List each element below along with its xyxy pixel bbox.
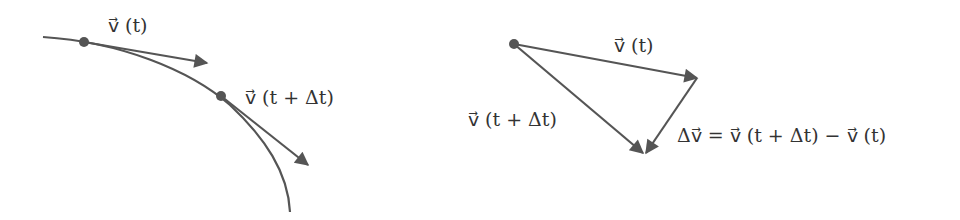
trajectory-panel: v⃗ (t) v⃗ (t + Δt) (43, 14, 334, 212)
label-v-t: v⃗ (t) (108, 14, 148, 36)
position-point-t-dt (216, 91, 226, 101)
vector-v-t-dt (514, 44, 643, 153)
vector-triangle-panel: v⃗ (t) v⃗ (t + Δt) Δv⃗ = v⃗ (t + Δt) − v… (468, 34, 886, 153)
trajectory-curve (43, 37, 290, 212)
label-delta-v-equation: Δv⃗ = v⃗ (t + Δt) − v⃗ (t) (677, 124, 886, 146)
velocity-vector-t (84, 42, 207, 63)
position-point-t (79, 37, 89, 47)
common-origin-point (509, 39, 519, 49)
velocity-change-diagram: v⃗ (t) v⃗ (t + Δt) v⃗ (t) v⃗ (t + Δt) Δv… (0, 0, 960, 220)
label-vector-v-t-dt: v⃗ (t + Δt) (468, 108, 557, 130)
label-v-t-dt: v⃗ (t + Δt) (245, 86, 334, 108)
vector-v-t (514, 44, 697, 78)
label-vector-v-t: v⃗ (t) (614, 34, 654, 56)
